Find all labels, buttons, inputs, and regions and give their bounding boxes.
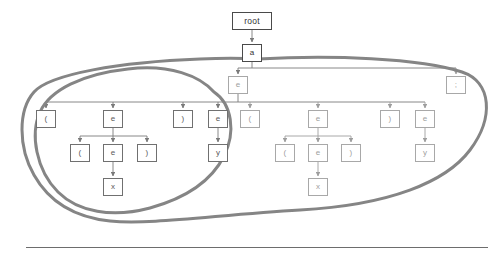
tree-node-semicolon[interactable]: ; [446, 76, 466, 94]
tree-node-lparen-4[interactable]: ( [275, 144, 295, 162]
tree-node-y-2[interactable]: y [415, 144, 435, 162]
tree-node-lparen-1[interactable]: ( [36, 110, 56, 128]
tree-node-e-2[interactable]: e [208, 110, 228, 128]
tree-node-x-1[interactable]: x [103, 178, 123, 196]
tree-node-e-5[interactable]: e [103, 144, 123, 162]
tree-node-y-1[interactable]: y [208, 144, 228, 162]
tree-node-rparen-3[interactable]: ) [137, 144, 157, 162]
tree-node-e-4[interactable]: e [415, 110, 435, 128]
tree-node-e-1[interactable]: e [103, 110, 123, 128]
tree-node-rparen-4[interactable]: ) [341, 144, 361, 162]
tree-node-e-6[interactable]: e [308, 144, 328, 162]
parse-tree-diagram: root a e ; ( e ) e ( e ) e ( e ) y ( e )… [0, 0, 502, 255]
tree-node-x-2[interactable]: x [308, 178, 328, 196]
tree-node-e-3[interactable]: e [308, 110, 328, 128]
tree-node-lparen-3[interactable]: ( [70, 144, 90, 162]
tree-node-lparen-2[interactable]: ( [240, 110, 260, 128]
tree-node-rparen-1[interactable]: ) [173, 110, 193, 128]
inner-highlight-loop [35, 68, 231, 213]
highlight-loops [22, 57, 486, 222]
tree-node-rparen-2[interactable]: ) [380, 110, 400, 128]
tree-node-root[interactable]: root [232, 12, 272, 30]
tree-node-a[interactable]: a [242, 44, 262, 62]
bottom-divider [26, 247, 488, 248]
outer-highlight-loop [22, 57, 486, 222]
tree-node-e-level2[interactable]: e [228, 76, 248, 94]
